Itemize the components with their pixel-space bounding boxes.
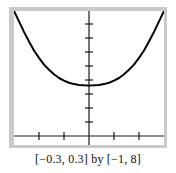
- viewing-window-caption: [−0.3, 0.3] by [−1, 8]: [0, 152, 176, 167]
- plot-canvas: [14, 11, 164, 145]
- graph-figure: [−0.3, 0.3] by [−1, 8]: [0, 0, 176, 173]
